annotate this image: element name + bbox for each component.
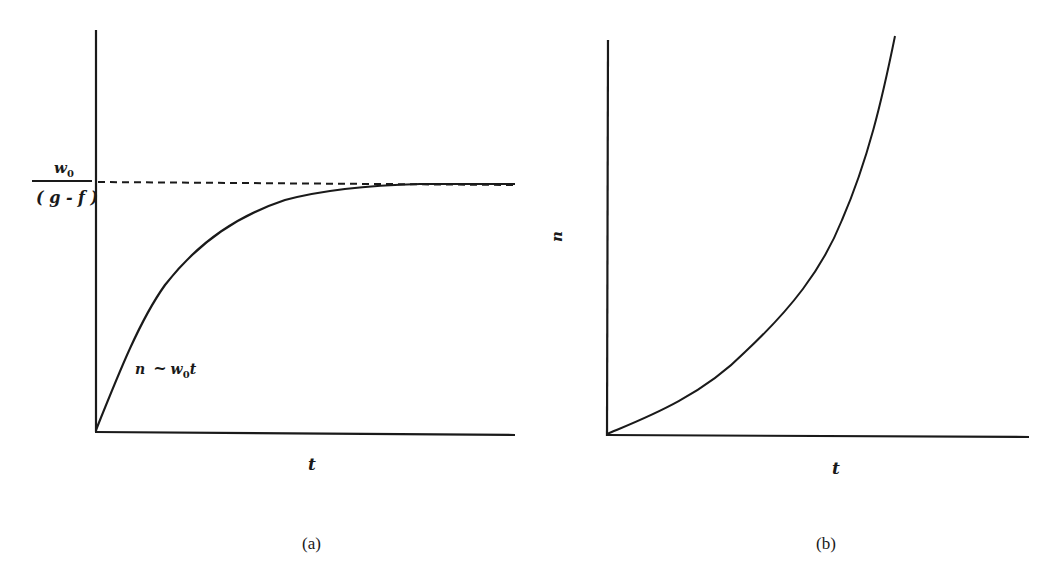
panel-b: n t (b): [548, 36, 1029, 553]
panel-a-annotation: n~w0t: [135, 359, 197, 380]
panel-b-y-axis: [607, 40, 608, 436]
panel-a-curve: [96, 184, 515, 430]
panel-a: w0 ( g - f ) n~w0t t (a): [32, 30, 515, 553]
panel-a-asymptote-numerator: w0: [54, 159, 74, 179]
panel-a-caption: (a): [302, 534, 321, 553]
panel-b-curve: [607, 36, 895, 434]
panel-b-x-axis: [606, 435, 1029, 437]
figure: w0 ( g - f ) n~w0t t (a) n t (b): [0, 0, 1052, 577]
panel-b-x-label: t: [832, 458, 840, 478]
panel-b-caption: (b): [816, 534, 836, 553]
panel-a-x-axis: [95, 432, 515, 435]
panel-a-asymptote-denominator: ( g - f ): [36, 188, 98, 207]
panel-b-y-label: n: [548, 231, 566, 242]
panel-a-x-label: t: [308, 454, 316, 474]
